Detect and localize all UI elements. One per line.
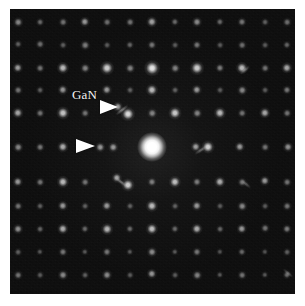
- diffraction-spot: [282, 177, 292, 187]
- diffraction-spot: [282, 224, 292, 234]
- diffraction-spot: [101, 200, 112, 211]
- diffraction-spot: [125, 40, 134, 49]
- diffraction-streak: [193, 144, 209, 156]
- diffraction-spot: [261, 18, 270, 27]
- diffraction-spot: [126, 248, 134, 256]
- diffraction-spot: [81, 202, 90, 211]
- diffraction-spot: [103, 41, 112, 50]
- diffraction-spot: [80, 108, 90, 118]
- diffraction-spot: [12, 107, 24, 119]
- diffraction-spot: [171, 41, 180, 50]
- diffraction-spot: [36, 225, 45, 234]
- diffraction-spot: [170, 224, 179, 233]
- diffraction-figure: GaN: [0, 0, 305, 306]
- diffraction-spot: [282, 85, 292, 95]
- diffraction-spot: [126, 202, 135, 211]
- diffraction-spot: [171, 271, 180, 280]
- diffraction-spot: [57, 84, 68, 95]
- diffraction-spot: [191, 84, 202, 95]
- diffraction-spot: [261, 202, 270, 211]
- diffraction-spot: [192, 247, 202, 257]
- diffraction-spot: [213, 106, 226, 119]
- diffraction-spot: [171, 86, 180, 95]
- diffraction-spot: [57, 200, 68, 211]
- diffraction-spot: [192, 177, 202, 187]
- diffraction-spot: [216, 248, 224, 256]
- gan-phase-label: GaN: [72, 88, 97, 101]
- diffraction-spot: [282, 17, 292, 27]
- diffraction-spot: [145, 222, 158, 235]
- diffraction-spot: [101, 223, 114, 236]
- diffraction-spot: [57, 141, 69, 153]
- diffraction-spot: [35, 39, 45, 49]
- diffraction-spot: [35, 63, 45, 73]
- diffraction-spot: [58, 17, 68, 27]
- diffraction-spot: [261, 86, 270, 95]
- diffraction-spot: [36, 86, 45, 95]
- diffraction-streak: [240, 178, 253, 189]
- diffraction-spot: [146, 268, 157, 279]
- diffraction-spot: [14, 248, 23, 257]
- diffraction-spot: [125, 224, 134, 233]
- diffraction-spot: [35, 142, 45, 152]
- diffraction-spot: [13, 17, 24, 28]
- diffraction-spot: [58, 247, 68, 257]
- diffraction-spot: [236, 223, 247, 234]
- diffraction-spot: [216, 86, 225, 95]
- diffraction-spot: [237, 40, 247, 50]
- diffraction-spot: [12, 62, 23, 73]
- diffraction-streak: [113, 175, 128, 188]
- diffraction-spot: [36, 271, 45, 280]
- diffraction-spot: [80, 63, 91, 74]
- diffraction-spot: [283, 142, 294, 153]
- diffraction-spot: [95, 142, 106, 153]
- diffraction-spot: [192, 108, 203, 119]
- diffraction-spot: [216, 202, 225, 211]
- diffraction-spot: [237, 247, 246, 256]
- diffraction-spot: [80, 40, 91, 51]
- diffraction-streak: [239, 64, 252, 75]
- diffraction-spot: [145, 199, 158, 212]
- diffraction-spot: [216, 271, 224, 279]
- diffraction-spot: [80, 224, 89, 233]
- diffraction-spot: [56, 61, 69, 74]
- diffraction-spot: [12, 176, 23, 187]
- diffraction-spot: [260, 63, 270, 73]
- diffraction-spot: [146, 16, 158, 28]
- upper-arrowhead-icon: [100, 100, 118, 114]
- diffraction-spot: [192, 270, 203, 281]
- diffraction-spot: [170, 63, 181, 74]
- diffraction-spot: [13, 201, 23, 211]
- diffraction-spot: [216, 225, 225, 234]
- diffraction-streak: [282, 267, 295, 278]
- diffraction-spot: [147, 40, 157, 50]
- diffraction-spot: [282, 40, 291, 49]
- diffraction-spot: [216, 41, 225, 50]
- diffraction-spot: [214, 176, 226, 188]
- diffraction-spot: [282, 108, 292, 118]
- diffraction-spot: [36, 202, 45, 211]
- diffraction-spot: [144, 60, 161, 77]
- diffraction-spot: [234, 141, 245, 152]
- diffraction-spot: [192, 17, 203, 28]
- diffraction-spot: [58, 270, 69, 281]
- diffraction-spot: [237, 108, 247, 118]
- diffraction-spot: [261, 41, 270, 50]
- diffraction-spot: [237, 270, 247, 280]
- diffraction-spot: [125, 63, 136, 74]
- diffraction-spot: [126, 86, 135, 95]
- diffraction-spot: [13, 142, 24, 153]
- diffraction-spot: [260, 142, 270, 152]
- diffraction-spot: [81, 271, 90, 280]
- diffraction-spot: [191, 200, 202, 211]
- diffraction-spot: [56, 175, 69, 188]
- diffraction-spot: [79, 16, 90, 27]
- diffraction-spot: [14, 40, 23, 49]
- diffraction-spot: [102, 247, 112, 257]
- diffraction-spot: [13, 270, 23, 280]
- diffraction-spot: [108, 142, 119, 153]
- diffraction-spot: [147, 177, 157, 187]
- diffraction-spot: [283, 248, 292, 257]
- diffraction-spot: [36, 248, 44, 256]
- diffraction-spot: [56, 106, 70, 120]
